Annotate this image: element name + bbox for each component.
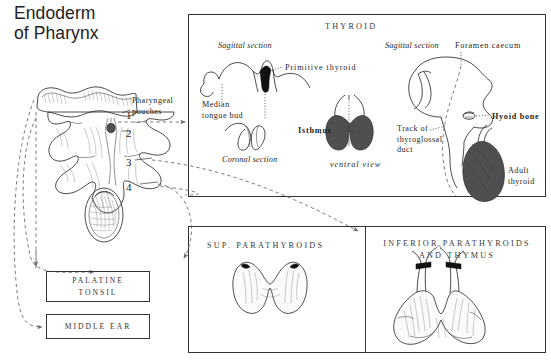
label-primitive-thyroid: Primitive thyroid — [285, 63, 356, 74]
label-ventral-view: ventral view — [330, 160, 381, 171]
label-foramen-caecum: Foramen caecum — [455, 41, 521, 52]
label-isthmus: Isthmus — [298, 126, 332, 137]
label-pouch-2: 2 — [126, 126, 132, 140]
label-adult-thyroid: Adult thyroid — [508, 166, 535, 187]
label-pouch-3: 3 — [126, 155, 132, 169]
outcome-box-middle-ear-label: MIDDLE EAR — [65, 321, 132, 333]
label-pouch-1: 1 — [126, 108, 132, 122]
panel-heading-thyroid: THYROID — [325, 21, 377, 33]
label-median-tongue-bud: Median tongue bud — [202, 100, 243, 121]
outcome-box-palatine-tonsil-label: PALATINE TONSIL — [72, 275, 124, 299]
outcome-box-palatine-tonsil: PALATINE TONSIL — [46, 271, 150, 302]
label-track-of-thyroglossal-duct: Track of thyroglossal duct — [397, 124, 442, 156]
panel-heading-sup-parathyroids: SUP. PARATHYROIDS — [207, 240, 324, 252]
label-sagittal-section-right: Sagittal section — [385, 41, 439, 52]
label-sagittal-section-left: Sagittal section — [218, 41, 272, 52]
label-pouch-4: 4 — [126, 180, 132, 194]
outcome-box-middle-ear: MIDDLE EAR — [46, 314, 150, 339]
page-title: Endoderm of Pharynx — [14, 4, 184, 43]
label-pharyngeal-pouches: Pharyngeal pouches — [132, 96, 173, 117]
diagram-canvas: Endoderm of Pharynx THYROID SUP. PARATHY… — [0, 0, 551, 360]
label-hyoid-bone: Hyoid bone — [492, 112, 539, 123]
label-coronal-section: Coronal section — [222, 155, 277, 166]
panel-heading-inferior-parathyroids-thymus: INFERIOR PARATHYROIDS AND THYMUS — [377, 238, 537, 263]
